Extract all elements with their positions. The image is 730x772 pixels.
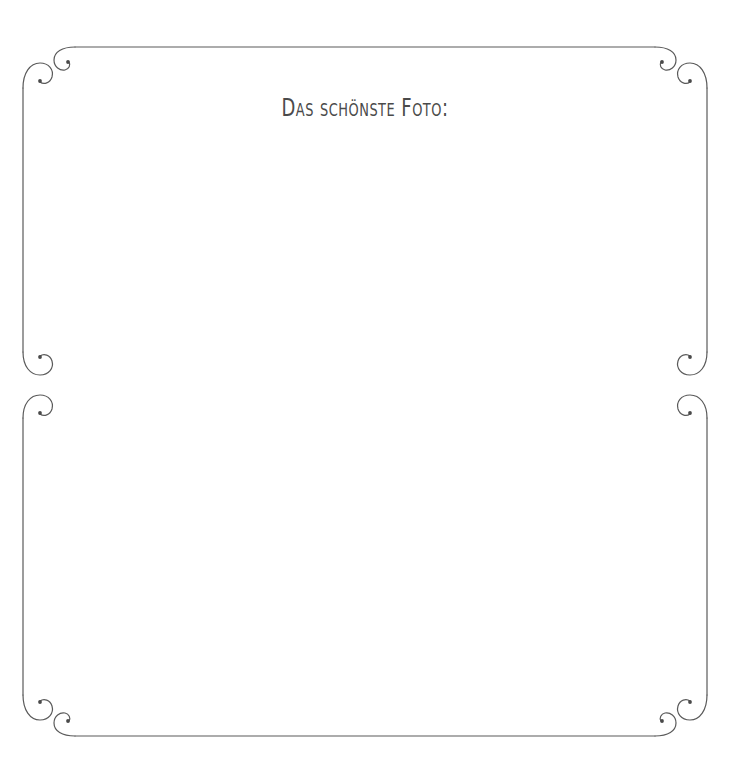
spiral-top-right-horizontal <box>655 47 676 70</box>
dot-top-left-horizontal <box>66 60 70 64</box>
spiral-top-left-vertical <box>23 63 52 88</box>
dot-top-right-vertical <box>688 79 692 83</box>
page-title: Das schönste Foto: <box>73 94 657 122</box>
scrapbook-page: Das schönste Foto: <box>0 0 730 772</box>
dot-top-right-horizontal <box>660 60 664 64</box>
dot-top-left-vertical <box>38 79 42 83</box>
photo-placeholder[interactable] <box>24 140 706 730</box>
spiral-top-left-horizontal <box>54 47 75 70</box>
spiral-top-right-vertical <box>678 63 707 88</box>
